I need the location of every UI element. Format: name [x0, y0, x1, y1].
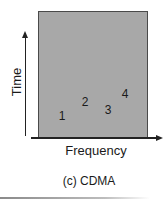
- divider: [0, 197, 150, 199]
- frequency-axis-label: Frequency: [65, 143, 126, 158]
- time-axis-label: Time: [9, 68, 24, 96]
- figure-caption: (c) CDMA: [63, 174, 116, 188]
- code-label-2: 2: [82, 95, 89, 109]
- arrow-right-icon: [156, 135, 163, 141]
- code-label-1: 1: [59, 109, 66, 123]
- arrow-up-icon: [22, 31, 28, 38]
- code-label-4: 4: [122, 87, 129, 101]
- time-axis-line: [25, 36, 26, 136]
- frequency-axis-line: [31, 137, 157, 139]
- time-frequency-region: [38, 11, 148, 138]
- code-label-3: 3: [105, 103, 112, 117]
